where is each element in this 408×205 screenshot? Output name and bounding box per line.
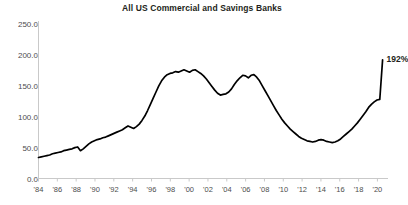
chart-axes bbox=[36, 21, 389, 182]
data-series-line bbox=[39, 60, 383, 158]
annotation-end-value: 192% bbox=[387, 54, 408, 64]
chart-data-line bbox=[39, 60, 383, 158]
